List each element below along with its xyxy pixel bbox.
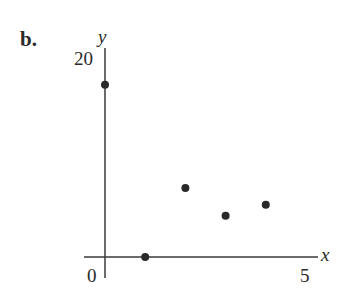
data-points bbox=[101, 81, 270, 261]
data-point bbox=[222, 212, 230, 220]
data-point bbox=[262, 201, 270, 209]
data-point bbox=[181, 184, 189, 192]
scatter-plot bbox=[0, 0, 345, 297]
data-point bbox=[141, 253, 149, 261]
data-point bbox=[101, 81, 109, 89]
